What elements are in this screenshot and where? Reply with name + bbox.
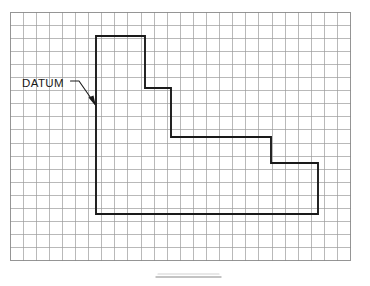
technical-drawing-figure: DATUM — [0, 0, 370, 286]
drawing-canvas: DATUM — [0, 0, 370, 286]
datum-label: DATUM — [22, 77, 64, 89]
